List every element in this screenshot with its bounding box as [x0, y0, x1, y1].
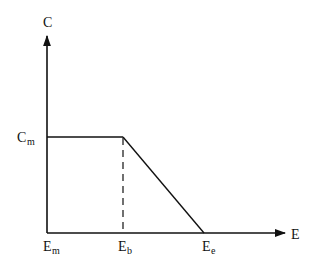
svg-text:m: m — [52, 245, 60, 256]
em-label: E m — [43, 239, 60, 256]
x-axis-label: E — [291, 227, 300, 242]
cm-label: C m — [17, 130, 35, 147]
svg-text:C: C — [17, 130, 26, 145]
ee-label: E e — [202, 239, 216, 256]
svg-text:m: m — [27, 136, 35, 147]
svg-text:E: E — [43, 239, 52, 254]
decline-segment — [123, 137, 204, 233]
eb-label: E b — [118, 239, 132, 256]
svg-text:e: e — [211, 245, 216, 256]
svg-text:E: E — [118, 239, 127, 254]
svg-text:b: b — [127, 245, 132, 256]
diagram: C E C m E m E b E e — [0, 0, 312, 268]
svg-text:E: E — [202, 239, 211, 254]
y-axis-label: C — [43, 15, 52, 30]
